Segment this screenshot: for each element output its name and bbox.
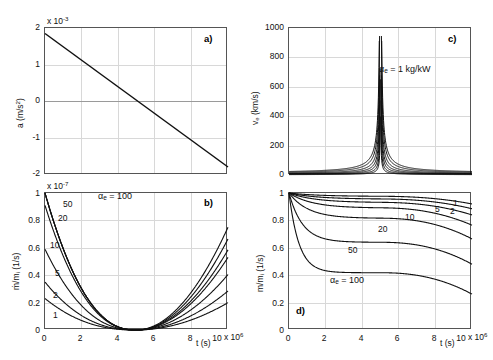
- panel-c-plot-area: [288, 27, 471, 174]
- panel-c-ytick-1000: 1000: [256, 22, 284, 32]
- panel-b-xtick-2: 2: [70, 333, 90, 343]
- panel-d-xtick-6: 6: [387, 333, 407, 343]
- panel-d-x-axis-label: t (s): [440, 338, 455, 348]
- panel-c-y-axis-label: ve (km/s): [250, 91, 260, 125]
- panel-d-xtick-4: 4: [351, 333, 371, 343]
- panel-d-curve-label-10: 10: [405, 212, 414, 222]
- panel-d-ytick-0.6: 0.6: [258, 243, 284, 253]
- panel-b-x-exponent: x 106: [224, 331, 243, 342]
- panel-b-xtick-6: 6: [143, 333, 163, 343]
- panel-d-ytick-1: 1: [264, 188, 284, 198]
- panel-b-ytick-0.2: 0.2: [14, 298, 40, 308]
- panel-a-ytick-1: 1: [22, 59, 40, 69]
- panel-b-curve-label-2: 2: [53, 290, 58, 300]
- panel-d-curves: [289, 193, 472, 330]
- panel-b-y-axis-label: ṁ/mi (1/s): [11, 253, 21, 290]
- panel-a-y-exponent: x 10-3: [47, 15, 69, 26]
- panel-d-annotation-alpha: αe = 100: [330, 275, 364, 285]
- panel-c-ytick-0: 0: [256, 169, 284, 179]
- panel-d-xtick-2: 2: [314, 333, 334, 343]
- panel-c-ytick-800: 800: [256, 51, 284, 61]
- panel-a-ytick-0: 0: [22, 95, 40, 105]
- panel-b-curve-label-20: 20: [58, 213, 67, 223]
- panel-b-plot-area: [44, 192, 227, 329]
- panel-b-ytick-1: 1: [20, 188, 40, 198]
- panel-d-ytick-0.2: 0.2: [258, 298, 284, 308]
- panel-d-curve-label-20: 20: [378, 224, 387, 234]
- panel-d-curve-label-2: 2: [450, 206, 455, 216]
- panel-a-y-axis-label: a (m/s2): [14, 98, 25, 128]
- panel-d-x-exponent: x 106: [468, 331, 487, 342]
- panel-c-curves: [289, 28, 472, 175]
- panel-d-ytick-0.8: 0.8: [258, 215, 284, 225]
- panel-b-label: b): [204, 197, 213, 208]
- panel-a-plot-area: [44, 27, 227, 174]
- panel-b-y-exponent: x 10-7: [47, 180, 69, 191]
- panel-d-label: d): [296, 305, 305, 316]
- panel-b-curves: [45, 193, 228, 330]
- panel-b-curve-label-5: 5: [55, 268, 60, 278]
- panel-b-curve-label-50: 50: [63, 199, 72, 209]
- panel-d-curve-label-50: 50: [348, 245, 357, 255]
- panel-d-y-axis-label: m/mi (1/s): [255, 255, 265, 292]
- figure-canvas: x 10-3 2 1 0 -1 -2 a (m/s2) a) 1000 800 …: [0, 0, 493, 360]
- panel-a-ytick-neg2: -2: [18, 168, 40, 178]
- panel-d-curve-label-5: 5: [435, 204, 440, 214]
- panel-b-curve-label-1: 1: [53, 310, 58, 320]
- panel-c-label: c): [448, 33, 456, 44]
- panel-c-annotation-alpha: αe = 1 kg/kW: [379, 64, 431, 74]
- panel-d-plot-area: [288, 192, 471, 329]
- panel-b-annotation-alpha: αe = 100: [98, 191, 132, 201]
- panel-a-label: a): [204, 33, 212, 44]
- panel-b-curve-label-10: 10: [50, 240, 59, 250]
- panel-c-ytick-600: 600: [256, 81, 284, 91]
- panel-c-ytick-200: 200: [256, 140, 284, 150]
- panel-d-xtick-0: 0: [278, 333, 298, 343]
- panel-a-ytick-neg1: -1: [18, 132, 40, 142]
- panel-b-ytick-0.8: 0.8: [14, 215, 40, 225]
- panel-b-xtick-0: 0: [34, 333, 54, 343]
- panel-b-x-axis-label: t (s): [196, 338, 211, 348]
- panel-b-ytick-0.6: 0.6: [14, 243, 40, 253]
- panel-a-ytick-2: 2: [22, 22, 40, 32]
- panel-a-curves: [45, 28, 228, 175]
- panel-b-xtick-4: 4: [107, 333, 127, 343]
